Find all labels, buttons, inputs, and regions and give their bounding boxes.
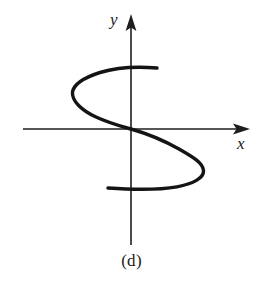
figure-caption: (d) — [0, 252, 263, 269]
x-axis-label: x — [237, 135, 245, 152]
relation-curve — [72, 67, 203, 189]
figure-container: y x (d) — [0, 0, 263, 295]
y-axis-label: y — [110, 11, 118, 28]
